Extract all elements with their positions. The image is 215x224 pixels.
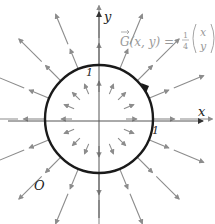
field-arrow: [70, 49, 78, 69]
field-arrow: [72, 92, 80, 100]
field-arrow: [124, 105, 134, 109]
field-arrow: [137, 66, 152, 81]
field-arrow: [64, 129, 74, 133]
field-arrow: [85, 144, 89, 154]
field-arrow: [149, 140, 169, 148]
field-arrow: [29, 90, 49, 98]
x-axis-label: x: [198, 104, 206, 119]
field-arrow: [56, 14, 68, 44]
field-arrow: [0, 76, 24, 88]
field-arrow: [149, 90, 169, 98]
column-y: y: [199, 40, 207, 53]
field-arrow: [72, 138, 80, 146]
field-arrow: [174, 150, 204, 162]
fraction-den: 4: [183, 42, 188, 51]
field-arrow: [118, 92, 126, 100]
field-arrow: [120, 49, 128, 69]
field-arrow: [156, 176, 179, 199]
field-arrow: [118, 138, 126, 146]
vector-field-arrows: [0, 6, 212, 224]
field-arrow: [109, 84, 113, 94]
field-arrow: [19, 39, 42, 62]
field-arrow: [109, 144, 113, 154]
field-arrow: [120, 169, 128, 189]
field-arrow: [124, 129, 134, 133]
tick-label-x: 1: [152, 124, 159, 137]
field-arrow: [85, 84, 89, 94]
field-arrow: [64, 105, 74, 109]
field-arrow: [46, 66, 61, 81]
field-arrow: [130, 194, 142, 224]
y-axis-label: y: [103, 9, 112, 24]
field-arrow: [46, 157, 61, 172]
field-arrow: [137, 157, 152, 172]
field-arrow: [0, 150, 24, 162]
field-arrow: [70, 169, 78, 189]
vector-field-diagram: x y O 1 1 G(x, y) = 1 4 x y: [0, 0, 215, 224]
formula-lhs: G(x, y) =: [120, 35, 174, 49]
field-arrow: [174, 76, 204, 88]
field-arrow: [56, 194, 68, 224]
field-formula: G(x, y) = 1 4 x y: [120, 24, 214, 53]
field-arrow: [29, 140, 49, 148]
fraction-num: 1: [183, 31, 188, 40]
column-x: x: [200, 26, 207, 39]
origin-label: O: [34, 178, 45, 193]
tick-label-y: 1: [86, 66, 93, 79]
